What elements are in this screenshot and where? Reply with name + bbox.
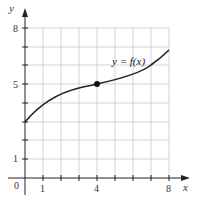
function-graph: y x y = f(x) 0 1 4 8 1 5 8 (0, 0, 207, 204)
y-axis-label: y (8, 2, 14, 14)
origin-label: 0 (14, 180, 19, 191)
y-tick-1: 1 (13, 153, 18, 164)
point-4-5 (94, 81, 100, 87)
curve-label: y = f(x) (111, 55, 145, 68)
x-tick-1: 1 (40, 183, 45, 194)
x-tick-8: 8 (166, 183, 171, 194)
x-tick-4: 4 (94, 183, 99, 194)
x-axis-label: x (182, 181, 188, 193)
y-axis-arrow-icon (22, 8, 28, 17)
y-tick-8: 8 (13, 23, 18, 34)
y-tick-5: 5 (13, 79, 18, 90)
